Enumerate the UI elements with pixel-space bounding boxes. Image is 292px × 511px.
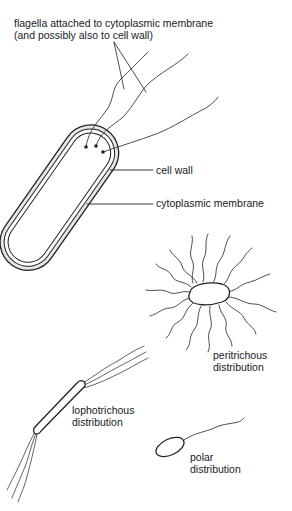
lophotrichous-label: lophotrichous distribution — [72, 404, 134, 428]
peritrichous-cell — [146, 234, 276, 352]
lophotrichous-flagella-top — [83, 346, 148, 388]
cell-wall-label: cell wall — [156, 164, 193, 176]
cytoplasmic-membrane — [0, 125, 118, 270]
cytoplasmic-membrane-label: cytoplasmic membrane — [156, 197, 264, 209]
lophotrichous-label-line1: lophotrichous — [72, 404, 134, 416]
polar-flagellum — [184, 418, 244, 440]
bacterial-flagella-diagram — [0, 0, 292, 511]
polar-label-line2: distribution — [190, 463, 241, 475]
peritrichous-label-line1: peritrichous — [213, 349, 267, 361]
lophotrichous-label-line2: distribution — [72, 416, 134, 428]
polar-body — [153, 433, 187, 460]
polar-label: polar distribution — [190, 451, 241, 475]
flagella-label-line1: flagella attached to cytoplasmic membran… — [14, 17, 213, 29]
lophotrichous-flagella-bottom — [7, 432, 37, 502]
peritrichous-body — [189, 283, 230, 305]
flagella-label: flagella attached to cytoplasmic membran… — [14, 17, 213, 41]
peritrichous-label: peritrichous distribution — [213, 349, 267, 373]
polar-label-line1: polar — [190, 451, 241, 463]
flagella-label-line2: (and possibly also to cell wall) — [14, 29, 213, 41]
flagella-pointer-lines — [114, 42, 146, 92]
main-cell — [0, 114, 130, 281]
peritrichous-label-line2: distribution — [213, 361, 267, 373]
